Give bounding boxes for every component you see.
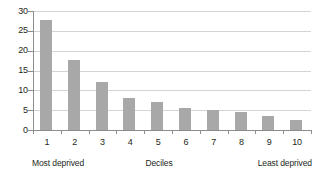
bar-5 xyxy=(151,102,163,130)
bar-8 xyxy=(235,112,247,130)
y-axis-label-5: 5 xyxy=(2,106,28,115)
y-axis-label-15: 15 xyxy=(2,66,28,75)
bar-chart: 30 25 20 15 10 5 0 1 2 3 4 5 6 7 8 9 10 … xyxy=(0,0,318,178)
x-tick-1 xyxy=(61,130,62,134)
bar-1 xyxy=(40,20,52,130)
y-axis-label-25: 25 xyxy=(2,26,28,35)
x-tick-10 xyxy=(311,130,312,134)
bar-6 xyxy=(179,108,191,130)
x-axis-label-9: 9 xyxy=(256,137,282,147)
x-tick-6 xyxy=(200,130,201,134)
bar-7 xyxy=(207,110,219,130)
x-tick-4 xyxy=(144,130,145,134)
x-tick-8 xyxy=(255,130,256,134)
bar-9 xyxy=(262,116,274,130)
x-axis-label-7: 7 xyxy=(201,137,227,147)
x-axis-label-3: 3 xyxy=(90,137,116,147)
x-tick-9 xyxy=(283,130,284,134)
x-axis-label-5: 5 xyxy=(145,137,171,147)
bar-4 xyxy=(123,98,135,130)
y-axis-label-20: 20 xyxy=(2,46,28,55)
bar-2 xyxy=(68,60,80,130)
y-axis-label-30: 30 xyxy=(2,7,28,16)
x-axis-label-10: 10 xyxy=(284,137,310,147)
y-axis-label-0: 0 xyxy=(2,126,28,135)
x-axis-label-1: 1 xyxy=(34,137,60,147)
y-axis-label-10: 10 xyxy=(2,86,28,95)
annotation-least-deprived: Least deprived xyxy=(258,158,312,168)
x-tick-0 xyxy=(33,130,34,134)
bar-series xyxy=(33,11,311,130)
x-axis-label-4: 4 xyxy=(117,137,143,147)
x-axis-label-6: 6 xyxy=(173,137,199,147)
x-axis-label-8: 8 xyxy=(229,137,255,147)
bar-3 xyxy=(96,82,108,130)
x-tick-2 xyxy=(89,130,90,134)
x-tick-3 xyxy=(116,130,117,134)
x-axis-label-2: 2 xyxy=(62,137,88,147)
x-tick-5 xyxy=(172,130,173,134)
x-tick-7 xyxy=(228,130,229,134)
bar-10 xyxy=(290,120,302,130)
